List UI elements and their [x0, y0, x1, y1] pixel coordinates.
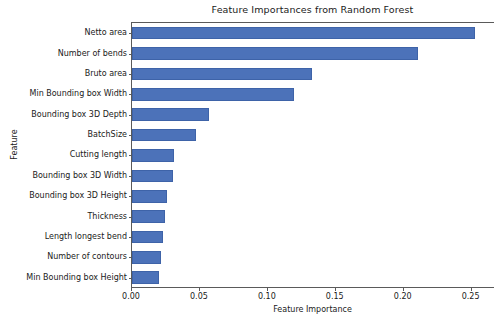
x-axis-tick-label: 0.20 [394, 292, 412, 301]
bar [132, 149, 174, 162]
y-axis-tick-label: Bounding box 3D Depth [31, 111, 127, 119]
bar [132, 231, 163, 244]
y-axis-tick-mark [129, 278, 132, 279]
y-axis-tick-label: Cutting length [70, 151, 127, 159]
y-axis-tick-label: BatchSize [88, 131, 127, 139]
x-axis-tick-mark [131, 288, 132, 291]
y-axis-tick-mark [129, 33, 132, 34]
x-axis-tick-mark [471, 288, 472, 291]
y-axis-tick-mark [129, 155, 132, 156]
bar-row: Bounding box 3D Depth [132, 108, 494, 121]
bar-row: Min Bounding box Height [132, 271, 494, 284]
y-axis-tick-mark [129, 94, 132, 95]
chart-title: Feature Importances from Random Forest [131, 4, 494, 15]
x-axis-tick-label: 0.25 [462, 292, 480, 301]
x-axis-tick-mark [267, 288, 268, 291]
bar [132, 190, 167, 203]
x-axis-tick-mark [403, 288, 404, 291]
bar [132, 170, 173, 183]
bar-row: Bruto area [132, 68, 494, 81]
bar [132, 27, 475, 40]
y-axis-tick-mark [129, 74, 132, 75]
bar-row: Thickness [132, 210, 494, 223]
bar [132, 108, 209, 121]
y-axis-tick-label: Netto area [85, 29, 127, 37]
bar [132, 210, 165, 223]
bar-row: Number of contours [132, 251, 494, 264]
y-axis-tick-mark [129, 176, 132, 177]
x-axis-line [131, 287, 494, 288]
y-axis-tick-mark [129, 257, 132, 258]
x-axis-tick-label: 0.00 [122, 292, 140, 301]
y-axis-tick-mark [129, 217, 132, 218]
bar-row: Min Bounding box Width [132, 88, 494, 101]
bar-row: Bounding box 3D Width [132, 170, 494, 183]
bar [132, 251, 161, 264]
y-axis-tick-label: Thickness [87, 213, 127, 221]
bar-row: Bounding box 3D Height [132, 190, 494, 203]
bar-row: Length longest bend [132, 231, 494, 244]
bar-row: BatchSize [132, 129, 494, 142]
y-axis-tick-label: Bounding box 3D Width [32, 172, 127, 180]
x-axis-tick-mark [199, 288, 200, 291]
bar [132, 271, 159, 284]
bar [132, 68, 312, 81]
x-axis-tick-label: 0.10 [258, 292, 276, 301]
bar [132, 47, 418, 60]
y-axis-tick-label: Length longest bend [45, 233, 127, 241]
bars-layer: Netto areaNumber of bendsBruto areaMin B… [132, 23, 494, 287]
feature-importance-chart-figure: Feature Importances from Random Forest N… [0, 0, 494, 319]
y-axis-tick-label: Min Bounding box Width [30, 90, 128, 98]
x-axis-tick-label: 0.15 [326, 292, 344, 301]
bar [132, 129, 196, 142]
y-axis-tick-label: Bruto area [85, 70, 127, 78]
y-axis-tick-mark [129, 237, 132, 238]
y-axis-tick-mark [129, 196, 132, 197]
y-axis-tick-label: Number of contours [47, 253, 127, 261]
plot-area: Netto areaNumber of bendsBruto areaMin B… [131, 22, 494, 287]
x-axis-tick-mark [335, 288, 336, 291]
y-axis-tick-mark [129, 115, 132, 116]
y-axis-tick-label: Number of bends [58, 50, 127, 58]
bar-row: Netto area [132, 27, 494, 40]
y-axis-title: Feature [10, 115, 19, 175]
bar [132, 88, 294, 101]
bar-row: Number of bends [132, 47, 494, 60]
y-axis-tick-mark [129, 135, 132, 136]
y-axis-tick-label: Bounding box 3D Height [29, 192, 127, 200]
y-axis-tick-mark [129, 54, 132, 55]
y-axis-tick-label: Min Bounding box Height [26, 274, 127, 282]
x-axis-title: Feature Importance [131, 305, 494, 314]
x-axis-tick-label: 0.05 [190, 292, 208, 301]
bar-row: Cutting length [132, 149, 494, 162]
